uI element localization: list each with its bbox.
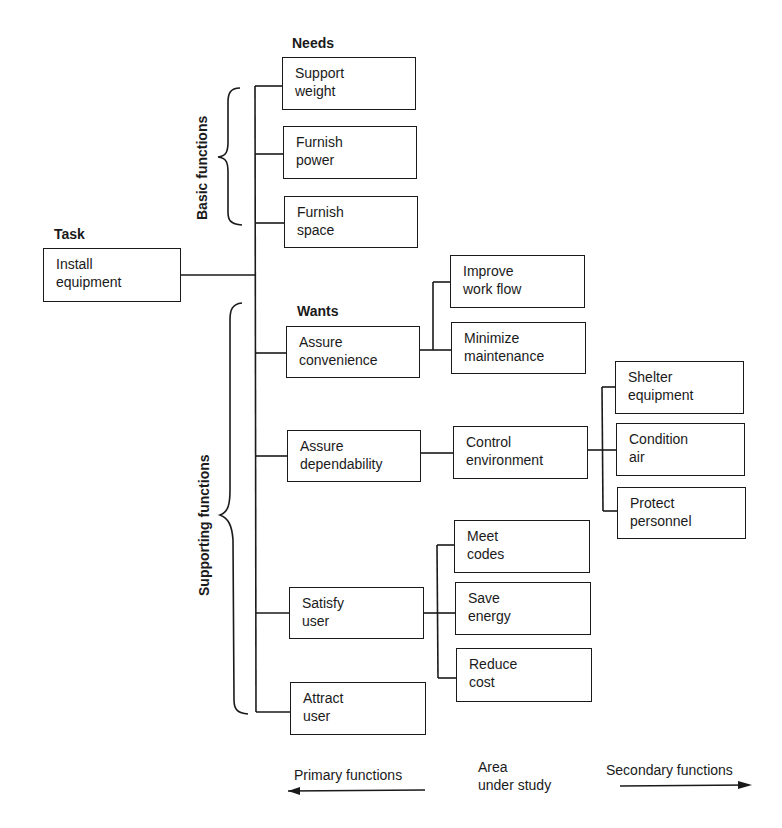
area-text: under study (478, 776, 551, 794)
need-box-furnish-power: Furnish power (283, 126, 417, 179)
box-text: equipment (628, 386, 743, 404)
primary-functions-label: Primary functions (294, 766, 402, 784)
box-text: environment (466, 451, 587, 469)
box-text: Assure (300, 437, 420, 455)
box-text: user (303, 707, 425, 725)
box-shelter-equipment: Shelter equipment (615, 361, 744, 414)
box-text: personnel (630, 512, 745, 530)
box-protect-personnel: Protect personnel (617, 487, 746, 539)
supporting-functions-label: Supporting functions (196, 454, 212, 596)
box-text: Assure (299, 333, 419, 351)
box-text: cost (469, 673, 591, 691)
box-text: Shelter (628, 368, 743, 386)
box-text: convenience (299, 351, 419, 369)
box-text: equipment (56, 273, 180, 291)
box-minimize-maintenance: Minimize maintenance (451, 322, 586, 374)
box-meet-codes: Meet codes (454, 520, 590, 573)
want-box-satisfy-user: Satisfy user (289, 587, 424, 639)
box-text: Minimize (464, 329, 585, 347)
box-text: work flow (463, 280, 584, 298)
box-text: Attract (303, 689, 425, 707)
box-text: dependability (300, 455, 420, 473)
box-text: Control (466, 433, 587, 451)
arrow-right-icon (738, 781, 752, 789)
box-text: Protect (630, 494, 745, 512)
box-text: Furnish (296, 133, 416, 151)
box-text: energy (468, 607, 590, 625)
box-text: space (297, 221, 417, 239)
box-text: codes (467, 545, 589, 563)
area-text: Area (478, 758, 551, 776)
box-text: Satisfy (302, 594, 423, 612)
box-text: weight (295, 82, 415, 100)
function-analysis-diagram: Task Needs Wants Basic functions Support… (0, 0, 782, 828)
want-box-assure-convenience: Assure convenience (286, 326, 420, 378)
arrow-left-icon (288, 787, 300, 795)
need-box-furnish-space: Furnish space (284, 196, 418, 248)
box-text: Support (295, 64, 415, 82)
box-text: Furnish (297, 203, 417, 221)
box-text: Condition (629, 430, 744, 448)
task-box-install-equipment: Install equipment (43, 248, 181, 302)
box-reduce-cost: Reduce cost (456, 648, 592, 702)
box-improve-work-flow: Improve work flow (450, 255, 585, 308)
box-control-environment: Control environment (453, 426, 588, 479)
wants-header: Wants (297, 303, 338, 319)
box-condition-air: Condition air (616, 423, 745, 476)
want-box-assure-dependability: Assure dependability (287, 430, 421, 482)
box-save-energy: Save energy (455, 582, 591, 635)
need-box-support-weight: Support weight (282, 57, 416, 110)
want-box-attract-user: Attract user (290, 682, 426, 735)
task-header: Task (54, 226, 85, 242)
basic-functions-label: Basic functions (194, 116, 210, 220)
box-text: Improve (463, 262, 584, 280)
needs-header: Needs (292, 35, 334, 51)
box-text: air (629, 448, 744, 466)
box-text: power (296, 151, 416, 169)
box-text: maintenance (464, 347, 585, 365)
secondary-functions-label: Secondary functions (606, 761, 733, 779)
box-text: Save (468, 589, 590, 607)
box-text: Meet (467, 527, 589, 545)
box-text: Install (56, 255, 180, 273)
area-under-study-label: Area under study (478, 758, 551, 794)
box-text: Reduce (469, 655, 591, 673)
box-text: user (302, 612, 423, 630)
